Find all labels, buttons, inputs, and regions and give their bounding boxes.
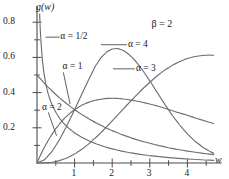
curve-label-0: α = 1/2 bbox=[60, 32, 87, 42]
leader-line-2 bbox=[48, 112, 56, 135]
plot-area bbox=[0, 0, 229, 179]
y-axis-label: g(w) bbox=[36, 2, 54, 12]
y-tick-label: 0.2 bbox=[3, 123, 15, 133]
y-tick-label: 0.6 bbox=[3, 52, 15, 62]
x-tick-label: 3 bbox=[147, 169, 152, 179]
leader-lines-group bbox=[46, 37, 135, 136]
x-tick-label: 1 bbox=[72, 169, 77, 179]
curve-label-2: α = 2 bbox=[42, 103, 62, 113]
x-tick-label: 2 bbox=[109, 169, 114, 179]
x-axis-label: w bbox=[215, 155, 222, 165]
x-tick-label: 4 bbox=[184, 169, 189, 179]
y-tick-label: 0.8 bbox=[3, 17, 15, 27]
beta-annotation: β = 2 bbox=[152, 19, 173, 29]
curve-label-4: α = 4 bbox=[128, 40, 148, 50]
y-tick-label: 0.4 bbox=[3, 88, 15, 98]
leader-line-1 bbox=[63, 72, 70, 104]
curve-label-3: α = 3 bbox=[136, 64, 156, 74]
gamma-distribution-chart: g(w) w β = 2 0.20.40.60.8 1234 α = 1/2α … bbox=[0, 0, 229, 179]
curve-series-2 bbox=[37, 98, 214, 163]
curve-label-1: α = 1 bbox=[63, 62, 83, 72]
